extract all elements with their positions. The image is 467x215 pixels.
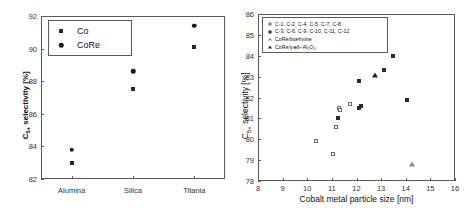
y-tick-label: 90 [29, 44, 37, 53]
y-tick-mark [258, 181, 261, 182]
legend-label: C‑1, C‑2, C‑4, C‑5, C‑7, C‑8 [275, 21, 341, 27]
y-tick-mark [258, 77, 261, 78]
x-tick-mark [332, 178, 333, 181]
x-tick-mark [194, 176, 195, 179]
legend-item: Co [53, 24, 125, 38]
marker-square-filled [336, 116, 340, 120]
x-tick-mark [258, 178, 259, 181]
x-tick-mark [307, 178, 308, 181]
x-tick-label: 12 [352, 184, 360, 193]
x-tick-label: 13 [377, 184, 385, 193]
x-tick-mark [455, 178, 456, 181]
y-tick-label: 81 [246, 114, 254, 123]
y-tick-label: 82 [246, 93, 254, 102]
y-tick-label: 84 [246, 51, 254, 60]
legend-left: CoCoRe [48, 20, 132, 56]
x-tick-mark [430, 178, 431, 181]
legend-item: C‑1, C‑2, C‑4, C‑5, C‑7, C‑8 [265, 20, 384, 28]
x-tick-label: 14 [402, 184, 410, 193]
marker-triangle-open [409, 162, 415, 167]
legend-right: C‑1, C‑2, C‑4, C‑5, C‑7, C‑8C‑3, C‑6, C‑… [262, 17, 388, 53]
y-tick-label: 86 [246, 10, 254, 19]
x-tick-label: 16 [451, 184, 459, 193]
x-tick-label: Silica [124, 186, 142, 195]
y-tick-label: 88 [29, 77, 37, 86]
marker-square-filled [59, 29, 63, 33]
x-tick-mark [357, 178, 358, 181]
marker-square-filled [192, 45, 196, 49]
x-tick-label: 10 [303, 184, 311, 193]
marker-square-open [348, 102, 352, 106]
marker-square-filled [359, 104, 363, 108]
x-tick-label: 11 [328, 184, 336, 193]
marker-square-filled [357, 79, 361, 83]
y-tick-mark [258, 14, 261, 15]
legend-marker [265, 20, 275, 27]
y-tick-mark [41, 81, 44, 82]
marker-square-filled [70, 161, 74, 165]
marker-square-filled [382, 68, 386, 72]
y-tick-mark [258, 160, 261, 161]
y-tick-mark [258, 118, 261, 119]
legend-label: C‑3, C‑6, C‑9, C‑10, C‑11, C‑12 [275, 28, 349, 34]
marker-square-open [331, 152, 335, 156]
x-tick-mark [133, 176, 134, 179]
x-tick-mark [283, 178, 284, 181]
legend-marker [53, 40, 69, 50]
marker-triangle-filled [372, 72, 378, 77]
y-tick-label: 85 [246, 30, 254, 39]
legend-item: C‑3, C‑6, C‑9, C‑10, C‑11, C‑12 [265, 28, 384, 36]
legend-marker [265, 43, 275, 50]
marker-square-open [338, 108, 342, 112]
x-tick-mark [72, 176, 73, 179]
x-tick-label: 8 [256, 184, 260, 193]
legend-marker [265, 35, 275, 42]
y-tick-label: 86 [29, 109, 37, 118]
marker-square-filled [131, 87, 135, 91]
y-tick-label: 83 [246, 72, 254, 81]
x-tick-label: Titania [183, 186, 205, 195]
x-tick-label: 15 [426, 184, 434, 193]
x-tick-label: Alumina [58, 186, 85, 195]
y-tick-mark [41, 114, 44, 115]
marker-circle-filled [192, 24, 197, 29]
x-tick-mark [381, 178, 382, 181]
marker-square-open [269, 23, 272, 26]
y-tick-mark [258, 35, 261, 36]
x-tick-label: 9 [281, 184, 285, 193]
legend-item: CoRe [53, 38, 125, 52]
y-tick-label: 80 [246, 135, 254, 144]
marker-circle-filled [69, 147, 74, 152]
marker-square-open [334, 125, 338, 129]
y-tick-label: 92 [29, 12, 37, 21]
marker-square-filled [269, 30, 272, 33]
y-tick-label: 78 [246, 177, 254, 186]
legend-marker [265, 28, 275, 35]
legend-label: CoRe [69, 40, 100, 50]
chart-panel-left: C5+ selectivity [%] 929088868482 Alumina… [0, 0, 234, 215]
y-tick-label: 84 [29, 142, 37, 151]
legend-label: CoRe/boehmite [275, 36, 312, 42]
marker-circle-filled [131, 69, 136, 74]
y-tick-mark [258, 98, 261, 99]
legend-label: Co [69, 26, 89, 36]
y-tick-mark [41, 179, 44, 180]
marker-triangle-filled [268, 46, 272, 49]
marker-square-open [314, 139, 318, 143]
y-tick-mark [41, 146, 44, 147]
y-tick-mark [258, 56, 261, 57]
marker-square-filled [391, 54, 395, 58]
y-tick-mark [41, 16, 44, 17]
legend-marker [53, 26, 69, 36]
marker-circle-filled [59, 43, 64, 48]
figure-container: C5+ selectivity [%] 929088868482 Alumina… [0, 0, 467, 215]
y-axis-title-right: C5+ selectivity [%] [240, 51, 252, 161]
legend-label: CoRe/γ⊕δ–Al₂O₃ [275, 44, 316, 50]
y-tick-mark [41, 49, 44, 50]
legend-item: CoRe/γ⊕δ–Al₂O₃ [265, 43, 384, 51]
legend-item: CoRe/boehmite [265, 35, 384, 43]
marker-triangle-open [268, 38, 272, 41]
marker-square-filled [405, 98, 409, 102]
x-tick-mark [406, 178, 407, 181]
chart-panel-right: C5+ selectivity [%] 868584838281807978 8… [234, 0, 467, 215]
